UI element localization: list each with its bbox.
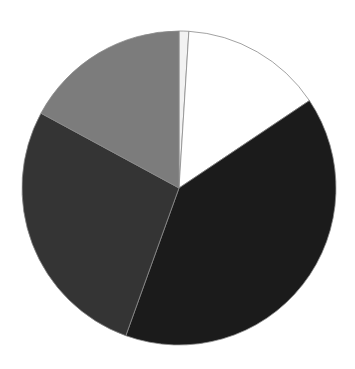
pie-chart (0, 0, 355, 369)
pie-chart-svg (0, 0, 355, 369)
